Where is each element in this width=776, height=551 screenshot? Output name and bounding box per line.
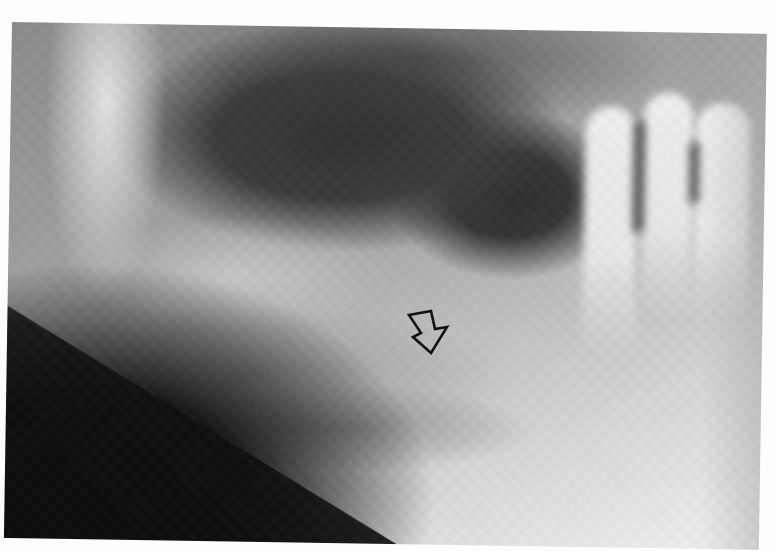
open-arrow-icon	[405, 305, 455, 355]
radiograph-image	[4, 22, 767, 550]
film-grain	[4, 22, 767, 550]
